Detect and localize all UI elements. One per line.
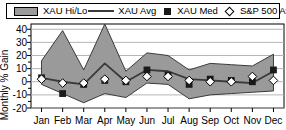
band-swatch-icon <box>14 7 38 16</box>
x-tick-label: Jul <box>162 115 175 126</box>
marker-xau-med <box>270 67 277 74</box>
x-tick-label: May <box>116 115 135 126</box>
x-tick-label: Jan <box>33 115 49 126</box>
x-tick-label: Nov <box>243 115 261 126</box>
y-tick-label: -10 <box>13 89 28 100</box>
x-tick-label: Feb <box>54 115 72 126</box>
legend-item-sp500-avg: S&P 500 Avg <box>218 4 286 18</box>
legend-label-xau-med: XAU Med <box>177 6 218 16</box>
y-axis-label: Monthly % Gain <box>0 0 11 44</box>
x-tick-label: Mar <box>75 115 93 126</box>
line-swatch-icon <box>88 10 114 12</box>
legend-item-xau-hilo: XAU Hi/Lo <box>7 4 87 18</box>
x-tick-label: Apr <box>97 115 113 126</box>
x-tick-label: Aug <box>180 115 198 126</box>
legend-label-sp500-avg: S&P 500 Avg <box>240 6 286 16</box>
y-tick-label: 20 <box>16 50 28 61</box>
y-tick-label: 10 <box>16 63 28 74</box>
y-tick-label: -20 <box>13 103 28 114</box>
filled-square-icon <box>164 8 171 15</box>
y-tick-label: 40 <box>16 24 28 35</box>
open-diamond-icon <box>224 6 234 16</box>
legend-item-xau-med: XAU Med <box>156 4 218 18</box>
legend-item-xau-avg: XAU Avg <box>87 4 156 18</box>
legend-label-xau-hilo: XAU Hi/Lo <box>43 6 87 16</box>
legend-label-xau-avg: XAU Avg <box>118 6 156 16</box>
x-tick-label: Dec <box>265 115 283 126</box>
xau-monthly-gain-chart: XAU Hi/Lo XAU Avg XAU Med S&P 500 Avg Mo… <box>0 0 286 130</box>
x-tick-label: Sep <box>201 115 219 126</box>
marker-xau-med <box>59 90 66 97</box>
plot-svg: 403020100-10-20JanFebMarAprMayJunJulAugS… <box>0 20 286 130</box>
chart-legend: XAU Hi/Lo XAU Avg XAU Med S&P 500 Avg <box>6 3 280 19</box>
x-tick-label: Oct <box>224 115 240 126</box>
x-tick-label: Jun <box>139 115 155 126</box>
y-tick-label: 30 <box>16 37 28 48</box>
plot-area: Monthly % Gain 403020100-10-20JanFebMarA… <box>0 20 286 130</box>
y-tick-label: 0 <box>21 76 27 87</box>
